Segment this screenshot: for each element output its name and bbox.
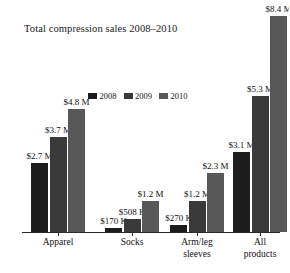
- legend-item: 2009: [124, 91, 153, 101]
- bar: [252, 96, 269, 232]
- chart-legend: 200820092010: [88, 91, 191, 101]
- category-label-line1: Arm/leg: [162, 237, 232, 249]
- x-axis-line: [22, 232, 280, 233]
- legend-item: 2008: [88, 91, 117, 101]
- legend-item: 2010: [159, 91, 188, 101]
- bar: [233, 152, 250, 232]
- category-label-line2: sleeves: [162, 249, 232, 261]
- bar: [142, 201, 159, 232]
- bar-value-label: $8.4 M: [259, 4, 290, 14]
- category-label: Socks: [97, 237, 167, 249]
- axis-tick: [132, 233, 133, 236]
- bar: [31, 163, 48, 232]
- bar: [207, 173, 224, 232]
- category-label-line2: products: [225, 249, 289, 261]
- axis-tick: [58, 233, 59, 236]
- category-label-line1: Socks: [97, 237, 167, 249]
- bar: [270, 16, 287, 232]
- bar-value-label: $1.2 M: [131, 189, 171, 199]
- legend-label: 2009: [135, 91, 152, 101]
- legend-label: 2010: [171, 91, 188, 101]
- bar: [189, 201, 206, 232]
- bar: [170, 225, 187, 232]
- category-label: Allproducts: [225, 237, 289, 260]
- legend-swatch-icon: [124, 93, 133, 99]
- bar: [68, 109, 85, 232]
- legend-label: 2008: [100, 91, 117, 101]
- bar-chart: Total compression sales 2008–2010 $2.7 M…: [0, 0, 289, 273]
- bar-value-label: $2.3 M: [196, 161, 236, 171]
- bar: [124, 219, 141, 232]
- category-label-line1: Apparel: [23, 237, 93, 249]
- legend-swatch-icon: [159, 93, 168, 99]
- category-label: Apparel: [23, 237, 93, 249]
- category-label-line1: All: [225, 237, 289, 249]
- axis-tick: [260, 233, 261, 236]
- category-label: Arm/legsleeves: [162, 237, 232, 260]
- axis-tick: [197, 233, 198, 236]
- bar: [50, 137, 67, 232]
- legend-swatch-icon: [88, 93, 97, 99]
